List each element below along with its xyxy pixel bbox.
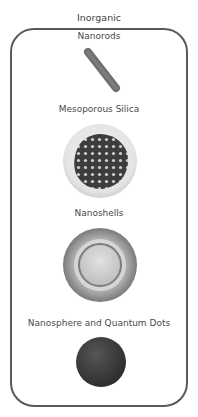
- label-mesoporous-silica: Mesoporous Silica: [0, 104, 198, 114]
- diagram-title: Inorganic: [0, 12, 198, 23]
- nanosphere-icon: [75, 336, 127, 388]
- label-nanoshells: Nanoshells: [0, 208, 198, 218]
- label-nanorods: Nanorods: [0, 31, 198, 41]
- nanorod-icon: [80, 46, 124, 94]
- mesoporous-silica-icon: [61, 122, 139, 200]
- label-nanosphere-quantum-dots: Nanosphere and Quantum Dots: [0, 318, 198, 328]
- nanoshell-icon: [61, 226, 139, 304]
